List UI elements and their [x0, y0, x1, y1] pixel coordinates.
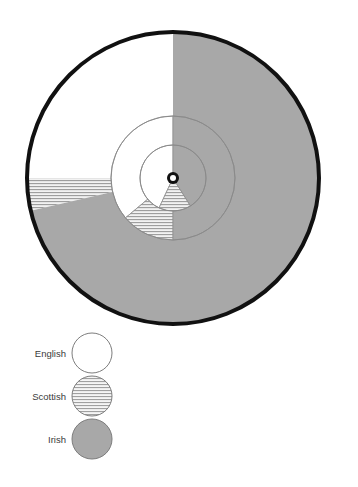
legend-swatch-irish	[72, 419, 112, 459]
hub-inner-dot	[170, 175, 176, 181]
legend-label-english: English	[35, 348, 66, 359]
chart-legend: EnglishScottishIrish	[32, 333, 112, 459]
legend-swatch-scottish	[72, 376, 112, 416]
legend-item-english[interactable]: English	[35, 333, 112, 373]
chart-canvas: EnglishScottishIrish	[0, 0, 358, 487]
center-hub	[167, 172, 179, 184]
legend-item-irish[interactable]: Irish	[48, 419, 112, 459]
legend-item-scottish[interactable]: Scottish	[32, 376, 112, 416]
nested-pie-chart-figure: EnglishScottishIrish	[0, 0, 358, 487]
legend-label-irish: Irish	[48, 434, 66, 445]
legend-label-scottish: Scottish	[32, 391, 66, 402]
legend-swatch-english	[72, 333, 112, 373]
